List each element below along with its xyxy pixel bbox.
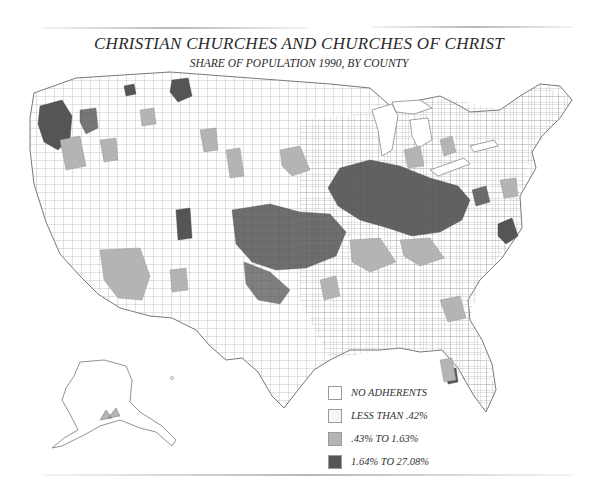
legend-swatch-mid bbox=[328, 432, 342, 446]
legend: NO ADHERENTS LESS THAN .42% .43% TO 1.63… bbox=[328, 381, 429, 473]
legend-swatch-high bbox=[328, 455, 342, 469]
legend-label: .43% TO 1.63% bbox=[351, 433, 418, 444]
legend-label: NO ADHERENTS bbox=[351, 387, 427, 398]
legend-item-high: 1.64% TO 27.08% bbox=[328, 450, 429, 473]
legend-swatch-low bbox=[328, 409, 342, 423]
legend-item-low: LESS THAN .42% bbox=[328, 404, 429, 427]
alaska-inset bbox=[52, 360, 176, 448]
legend-item-mid: .43% TO 1.63% bbox=[328, 427, 429, 450]
legend-swatch-none bbox=[328, 386, 342, 400]
choropleth-map bbox=[0, 0, 598, 498]
legend-item-none: NO ADHERENTS bbox=[328, 381, 429, 404]
legend-label: LESS THAN .42% bbox=[351, 410, 428, 421]
legend-label: 1.64% TO 27.08% bbox=[351, 456, 429, 467]
bottom-rule bbox=[42, 474, 574, 476]
